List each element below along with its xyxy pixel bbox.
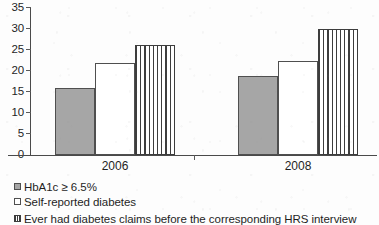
y-tick-label-25: 25	[2, 44, 24, 56]
y-tick-label-15: 15	[2, 86, 24, 98]
y-tick-mark-10	[26, 112, 31, 113]
legend-label-self-reported: Self-reported diabetes	[24, 196, 136, 208]
y-tick-mark-35	[26, 7, 31, 8]
legend-item-claims: Ever had diabetes claims before the corr…	[0, 211, 379, 225]
y-tick-mark-15	[26, 91, 31, 92]
solid-gray-swatch-icon	[14, 183, 21, 190]
y-tick-label-5: 5	[2, 128, 24, 140]
bar-2008-claims	[318, 29, 358, 155]
y-tick-mark-20	[26, 70, 31, 71]
y-tick-label-30: 30	[2, 23, 24, 35]
y-tick-label-35: 35	[2, 2, 24, 14]
legend-label-hba1c: HbA1c ≥ 6.5%	[24, 181, 97, 193]
x-axis-line	[8, 155, 377, 156]
bar-2008-self-reported	[278, 61, 318, 155]
y-tick-label-20: 20	[2, 65, 24, 77]
y-tick-label-10: 10	[2, 107, 24, 119]
y-axis-labels: 35 30 25 20 15 10 5 0	[0, 0, 24, 172]
x-group-label-2006: 2006	[85, 160, 145, 173]
legend-item-hba1c: HbA1c ≥ 6.5%	[0, 179, 379, 194]
chart-legend: HbA1c ≥ 6.5% Self-reported diabetes Ever…	[0, 179, 379, 225]
bar-2006-claims	[135, 45, 175, 155]
x-axis-category-separator	[194, 155, 195, 160]
bar-2008-hba1c	[238, 76, 278, 155]
legend-label-claims: Ever had diabetes claims before the corr…	[24, 213, 356, 225]
plot-area: 35 30 25 20 15 10 5 0 2006 200	[0, 0, 379, 172]
y-tick-mark-30	[26, 28, 31, 29]
y-tick-mark-25	[26, 49, 31, 50]
hollow-white-swatch-icon	[14, 198, 21, 205]
bar-2006-hba1c	[55, 88, 95, 155]
striped-swatch-icon	[14, 215, 21, 222]
chart-page: 35 30 25 20 15 10 5 0 2006 200	[0, 0, 379, 225]
legend-item-self-reported: Self-reported diabetes	[0, 194, 379, 209]
x-group-label-2008: 2008	[268, 160, 328, 173]
y-tick-mark-5	[26, 133, 31, 134]
bar-2006-self-reported	[95, 63, 135, 155]
